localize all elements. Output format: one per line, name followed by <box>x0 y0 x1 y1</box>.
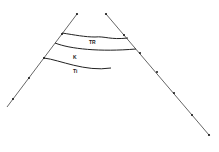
tr-horizon <box>62 33 128 39</box>
diagram-canvas <box>0 0 219 152</box>
label-tr: TR <box>89 40 96 45</box>
label-ti: Ti <box>73 69 77 74</box>
left-fault-line <box>7 14 77 107</box>
right-fault-line <box>106 14 209 135</box>
ti-horizon <box>44 58 111 69</box>
label-k: K <box>73 55 77 60</box>
